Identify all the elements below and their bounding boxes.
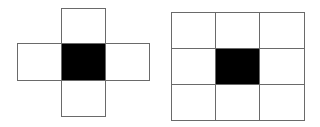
neighbor-cell-r0c2 xyxy=(259,12,305,49)
neighbor-cell-top xyxy=(61,8,106,44)
neighbor-cell-bottom xyxy=(61,80,106,117)
neighbor-cell-r1c0 xyxy=(171,48,216,85)
neighbor-cell-right xyxy=(105,43,150,81)
neighbor-cell-r0c1 xyxy=(215,12,260,49)
neighbor-cell-r1c2 xyxy=(259,48,305,85)
center-pixel xyxy=(215,48,260,85)
neighbor-cell-r2c0 xyxy=(171,84,216,121)
neighbor-cell-r0c0 xyxy=(171,12,216,49)
neighbor-cell-left xyxy=(17,43,62,81)
neighbor-cell-r2c1 xyxy=(215,84,260,121)
center-pixel xyxy=(61,43,106,81)
neighbor-cell-r2c2 xyxy=(259,84,305,121)
